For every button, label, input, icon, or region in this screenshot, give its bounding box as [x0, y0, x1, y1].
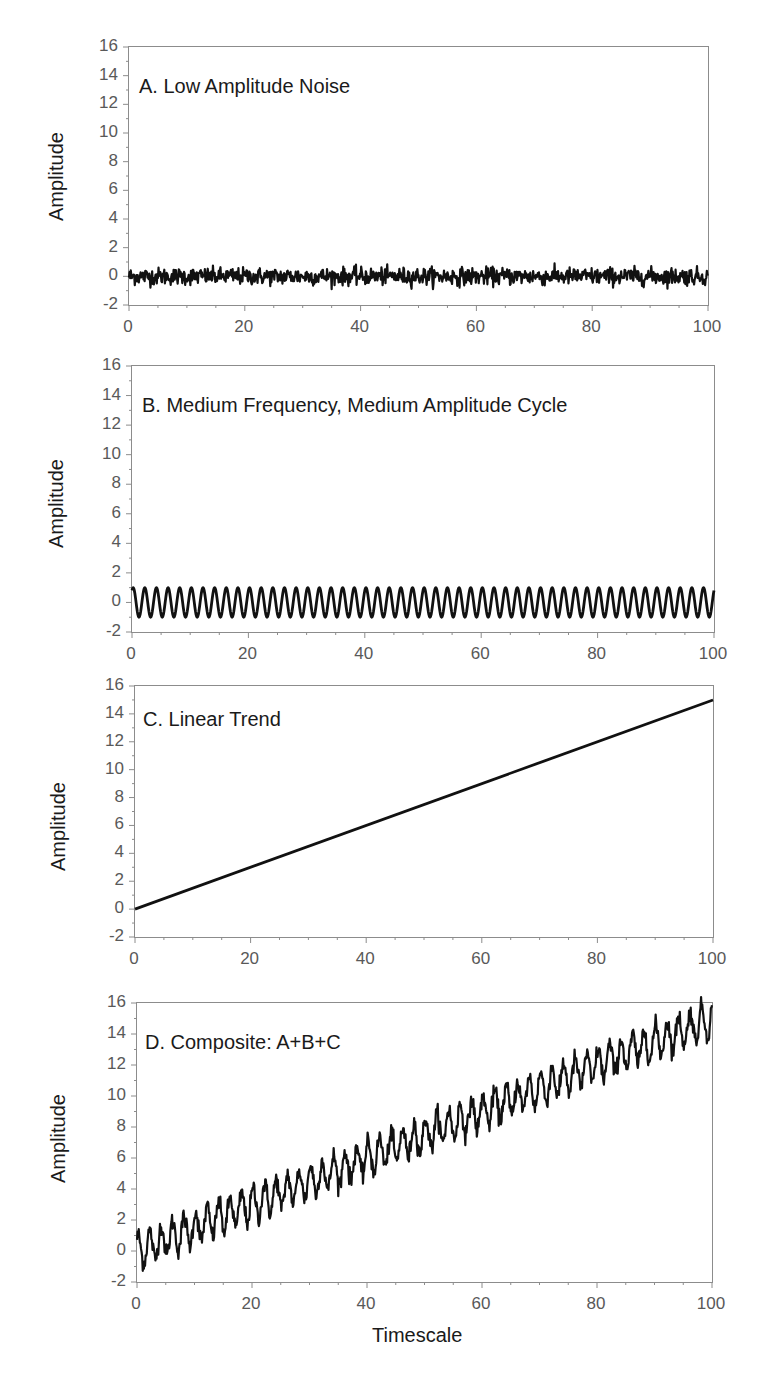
x-axis-label: Timescale [372, 1324, 462, 1347]
y-tick-label: 14 [86, 1024, 126, 1041]
y-axis-label: Amplitude [47, 1069, 70, 1209]
panel-d: Amplitude D. Composite: A+B+C Timescale … [0, 0, 772, 1376]
panel-title-d: D. Composite: A+B+C [145, 1031, 341, 1054]
y-tick-label: -2 [86, 1272, 126, 1289]
x-tick-label: 60 [451, 1295, 511, 1312]
x-tick-label: 40 [336, 1295, 396, 1312]
plot-area-d: D. Composite: A+B+C [136, 1002, 713, 1283]
x-tick-label: 20 [221, 1295, 281, 1312]
y-tick-label: 6 [86, 1148, 126, 1165]
x-tick-label: 0 [106, 1295, 166, 1312]
y-tick-label: 16 [86, 993, 126, 1010]
y-tick-label: 0 [86, 1241, 126, 1258]
y-tick-label: 2 [86, 1210, 126, 1227]
x-tick-label: 80 [566, 1295, 626, 1312]
y-tick-label: 8 [86, 1117, 126, 1134]
y-tick-label: 4 [86, 1179, 126, 1196]
x-tick-label: 100 [681, 1295, 741, 1312]
y-tick-label: 10 [86, 1086, 126, 1103]
y-tick-label: 12 [86, 1055, 126, 1072]
